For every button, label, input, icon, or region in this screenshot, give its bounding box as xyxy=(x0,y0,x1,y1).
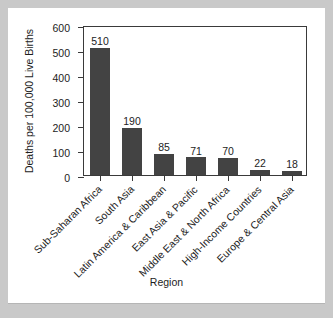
bar[interactable] xyxy=(90,48,110,176)
bar-value-label: 510 xyxy=(91,36,109,47)
bar[interactable] xyxy=(186,157,206,175)
bar-item[interactable]: 71 xyxy=(186,157,206,175)
plot-area: 0100200300400500600 5101908571702218 xyxy=(83,26,307,176)
bar-value-label: 18 xyxy=(286,159,298,170)
x-tick xyxy=(164,175,165,181)
y-tick-label: 0 xyxy=(64,173,70,184)
bar[interactable] xyxy=(122,128,142,176)
y-tick-label: 100 xyxy=(52,148,70,159)
x-category-label: Sub-Saharan Africa xyxy=(32,184,104,256)
bar-item[interactable]: 510 xyxy=(90,48,110,176)
bar-item[interactable]: 85 xyxy=(154,154,174,175)
chart-card: Deaths per 100,000 Live Births 010020030… xyxy=(8,8,325,303)
y-tick-label: 600 xyxy=(52,23,70,34)
y-tick-label: 200 xyxy=(52,123,70,134)
bar-value-label: 70 xyxy=(222,146,234,157)
bar-value-label: 22 xyxy=(254,158,266,169)
figure-background: Deaths per 100,000 Live Births 010020030… xyxy=(0,0,333,318)
y-tick-label: 400 xyxy=(52,73,70,84)
x-tick xyxy=(260,175,261,181)
bar-value-label: 71 xyxy=(190,146,202,157)
y-tick: 300 xyxy=(78,102,84,103)
y-axis-title-text: Deaths per 100,000 Live Births xyxy=(23,29,35,173)
x-tick xyxy=(228,175,229,181)
y-tick: 200 xyxy=(78,127,84,128)
y-tick-label: 300 xyxy=(52,98,70,109)
y-tick-label: 500 xyxy=(52,48,70,59)
x-tick xyxy=(292,175,293,181)
bar-item[interactable]: 70 xyxy=(218,158,238,176)
bar-value-label: 85 xyxy=(158,142,170,153)
bar[interactable] xyxy=(218,158,238,176)
x-tick xyxy=(100,175,101,181)
bar-value-label: 190 xyxy=(123,116,141,127)
x-tick xyxy=(196,175,197,181)
x-tick xyxy=(132,175,133,181)
bar[interactable] xyxy=(154,154,174,175)
bar-item[interactable]: 190 xyxy=(122,128,142,176)
y-tick: 500 xyxy=(78,52,84,53)
y-axis-title: Deaths per 100,000 Live Births xyxy=(22,26,36,176)
y-tick: 600 xyxy=(78,27,84,28)
y-tick: 400 xyxy=(78,77,84,78)
y-tick: 100 xyxy=(78,152,84,153)
y-tick: 0 xyxy=(78,177,84,178)
x-axis-title: Region xyxy=(8,276,325,288)
